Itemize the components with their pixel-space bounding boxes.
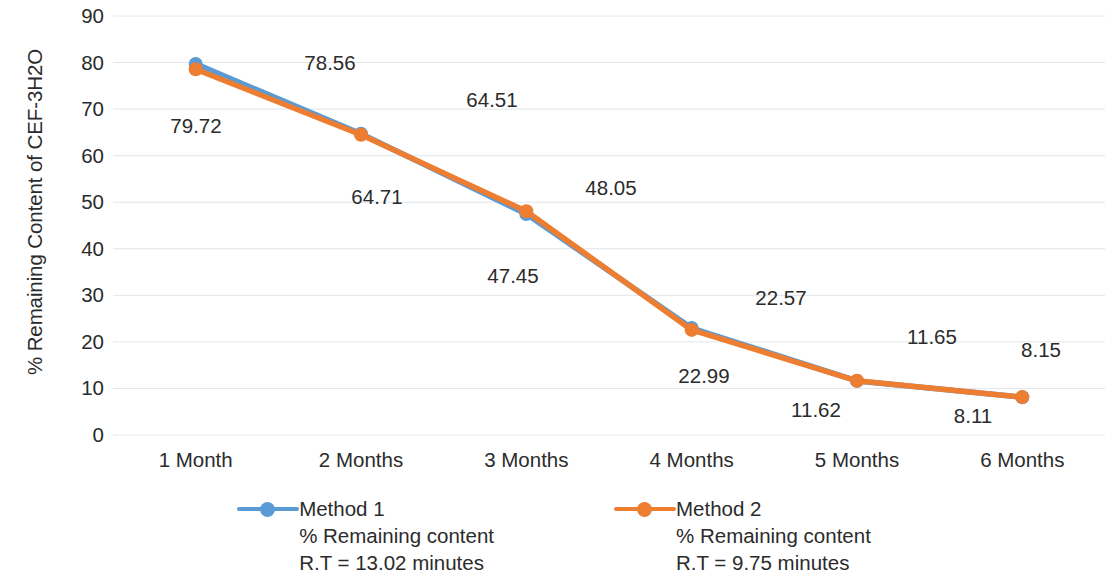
legend-entry-2[interactable]: Method 2% Remaining contentR.T = 9.75 mi… [614,495,871,582]
series-line-1[interactable] [196,64,1023,397]
x-axis-tick-5: 5 Months [774,448,939,478]
y-axis-tick-50: 50 [0,190,113,214]
legend-series-retention-time: R.T = 9.75 minutes [676,549,871,576]
data-label: 64.51 [466,88,517,112]
legend-series-subtitle: % Remaining content [676,522,871,549]
legend-series-name: Method 2 [676,495,871,522]
data-label: 47.45 [487,264,538,288]
chart-legend: Method 1% Remaining contentR.T = 13.02 m… [0,495,1108,582]
legend-series-retention-time: R.T = 13.02 minutes [299,549,494,576]
y-axis-tick-70: 70 [0,97,113,121]
legend-marker-icon [614,496,676,521]
y-axis-tick-30: 30 [0,283,113,307]
data-point-marker[interactable] [850,374,864,388]
y-axis-tick-0: 0 [0,423,113,447]
y-axis-tick-40: 40 [0,237,113,261]
series-line-2[interactable] [196,69,1023,397]
legend-text-block: Method 1% Remaining contentR.T = 13.02 m… [299,495,494,576]
data-label: 79.72 [170,114,221,138]
data-label: 11.65 [907,325,957,349]
y-axis-tick-60: 60 [0,144,113,168]
data-label: 11.62 [791,398,841,422]
data-label: 78.56 [304,51,355,75]
legend-series-name: Method 1 [299,495,494,522]
data-label: 48.05 [585,176,636,200]
legend-entry-1[interactable]: Method 1% Remaining contentR.T = 13.02 m… [237,495,494,582]
data-point-marker[interactable] [1015,390,1029,404]
data-label: 64.71 [351,185,402,209]
data-point-marker[interactable] [519,204,533,218]
legend-series-subtitle: % Remaining content [299,522,494,549]
x-axis-tick-2: 2 Months [278,448,443,478]
data-label: 22.99 [678,364,729,388]
data-point-marker[interactable] [685,323,699,337]
line-chart: % Remaining Content of CEF-3H2O 90807060… [0,0,1108,582]
x-axis-tick-4: 4 Months [609,448,774,478]
x-axis-tick-3: 3 Months [444,448,609,478]
x-axis-tick-6: 6 Months [940,448,1105,478]
data-label: 8.15 [1021,338,1061,362]
x-axis-tick-labels: 1 Month2 Months3 Months4 Months5 Months6… [113,448,1105,478]
legend-text-block: Method 2% Remaining contentR.T = 9.75 mi… [676,495,871,576]
data-point-marker[interactable] [189,62,203,76]
data-label: 8.11 [954,404,992,428]
y-axis-tick-10: 10 [0,376,113,400]
data-point-marker[interactable] [354,128,368,142]
x-axis-tick-1: 1 Month [113,448,278,478]
legend-marker-icon [237,496,299,521]
y-axis-tick-80: 80 [0,51,113,75]
data-label: 22.57 [755,286,806,310]
y-axis-tick-20: 20 [0,330,113,354]
y-axis-tick-90: 90 [0,4,113,28]
